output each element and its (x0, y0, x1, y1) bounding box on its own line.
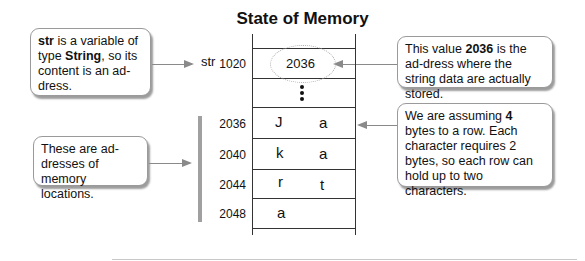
pointer-value: 2036 (286, 56, 315, 71)
memory-row-line (252, 169, 356, 170)
row-address: 2044 (206, 178, 246, 192)
diagram-title: State of Memory (0, 9, 585, 29)
row-char: a (277, 204, 285, 221)
memory-right-border (355, 34, 356, 235)
arrow-to-str (152, 64, 192, 65)
row-char: a (319, 145, 327, 162)
row-address: 2048 (206, 207, 246, 221)
pointer-address: 1020 (206, 57, 246, 71)
arrow-to-value (335, 64, 397, 65)
callout-addresses: These are ad-dresses of memory locations… (33, 136, 148, 186)
memory-row-line (252, 198, 356, 199)
row-address: 2036 (206, 117, 246, 131)
row-char: r (278, 173, 283, 190)
callout-value-2036: This value 2036 is the ad-dress where th… (397, 36, 553, 88)
arrow-to-addresses (149, 163, 190, 164)
footer-divider (112, 259, 577, 260)
row-address: 2040 (206, 148, 246, 162)
ellipsis-dots (300, 85, 304, 103)
memory-row-line (252, 228, 356, 229)
row-char: t (320, 176, 324, 193)
memory-left-border (252, 34, 253, 235)
callout-str-variable: str is a variable of type String, so its… (30, 28, 151, 96)
memory-row-line (252, 107, 356, 108)
row-char: a (319, 114, 327, 131)
callout-bytes-per-row: We are assuming 4 bytes to a row. Each c… (397, 103, 553, 187)
row-char: k (276, 144, 284, 161)
address-bracket-bar (198, 116, 202, 222)
memory-row-line (252, 138, 356, 139)
arrow-to-row-2036 (359, 125, 397, 126)
row-char: J (275, 113, 283, 130)
